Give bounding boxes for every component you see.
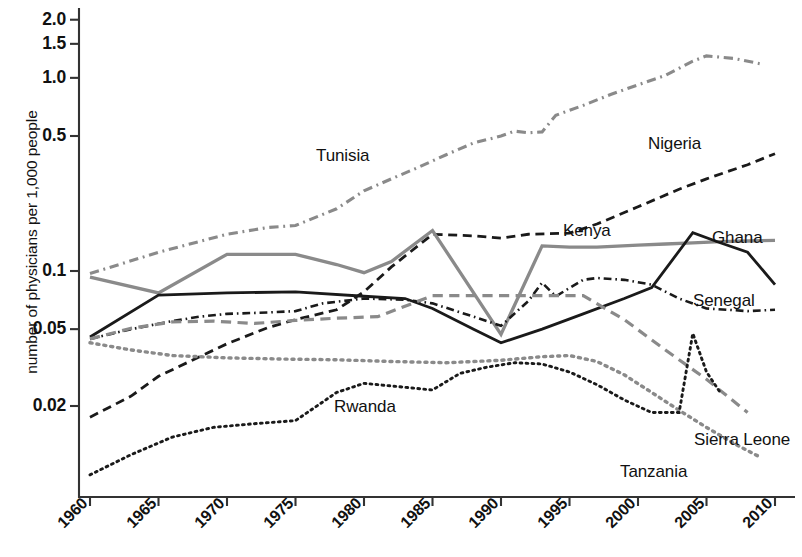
series-line-nigeria (90, 154, 775, 418)
series-label-tunisia: Tunisia (316, 146, 369, 166)
series-line-sierra-leone (90, 296, 748, 413)
y-tick-label: 0.05 (33, 318, 66, 339)
y-tick-label: 1.0 (42, 67, 66, 88)
chart-root: number of physicians per 1,000 people 2.… (0, 0, 802, 557)
series-label-tanzania: Tanzania (620, 462, 687, 482)
series-label-senegal: Senegal (693, 291, 755, 311)
series-line-tanzania (90, 343, 761, 458)
y-tick-label: 0.5 (42, 125, 66, 146)
y-tick-label: 0.02 (33, 395, 66, 416)
y-tick-label: 2.0 (42, 9, 66, 30)
y-axis-title: number of physicians per 1,000 people (23, 72, 41, 412)
series-line-ghana (90, 233, 775, 343)
series-label-kenya: Kenya (563, 221, 611, 241)
series-line-rwanda (90, 333, 720, 474)
series-label-sierra-leone: Sierra Leone (694, 430, 790, 450)
series-label-nigeria: Nigeria (648, 134, 701, 154)
series-label-rwanda: Rwanda (334, 397, 396, 417)
y-tick-label: 0.1 (42, 260, 66, 281)
series-label-ghana: Ghana (712, 228, 763, 248)
y-tick-label: 1.5 (42, 33, 66, 54)
